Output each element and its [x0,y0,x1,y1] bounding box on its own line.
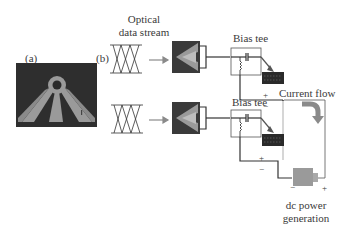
circuit-wiring [198,46,325,178]
current-flow-arrow-icon [302,104,324,124]
device-micrograph [16,63,97,127]
diagram-canvas [0,0,347,230]
arrow-top-icon [149,57,168,63]
dc-power-box [293,168,318,186]
photodetector-chip-top [172,41,200,73]
load-resistor-top [262,72,284,84]
eye-diagram-top [110,45,142,73]
load-resistor-bottom [262,134,284,146]
eye-diagram-bottom [111,105,143,133]
arrow-bottom-icon [149,117,168,123]
photodetector-chip-bottom [172,102,200,134]
